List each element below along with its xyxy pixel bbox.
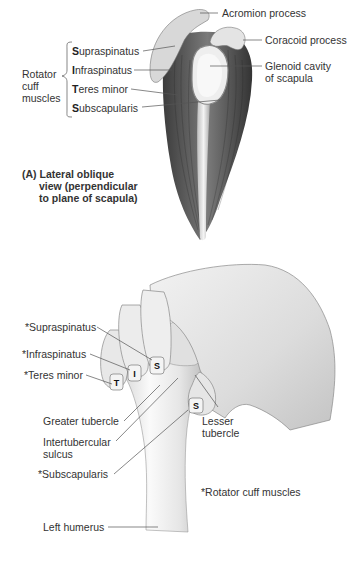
label-supraspinatus-b: *Supraspinatus <box>25 321 96 333</box>
label-lesser-tubercle-line1: Lesser <box>202 415 234 427</box>
group-label-rotator-line2: cuff <box>22 80 39 92</box>
label-greater-tubercle: Greater tubercle <box>43 415 119 427</box>
svg-text:I: I <box>133 369 136 379</box>
panel-a-caption: (A) Lateral oblique view (perpendicular … <box>22 168 138 204</box>
label-intertubercular-line1: Intertubercular <box>43 436 111 448</box>
footnote-rotator-cuff: *Rotator cuff muscles <box>201 486 301 498</box>
label-intertubercular-line2: sulcus <box>43 448 73 460</box>
svg-text:T: T <box>114 378 120 388</box>
label-glenoid-cavity-line1: Glenoid cavity <box>265 60 331 72</box>
label-subscapularis-b: *Subscapularis <box>38 468 108 480</box>
svg-text:S: S <box>193 401 199 411</box>
label-teres-minor-b: *Teres minor <box>24 369 83 381</box>
label-acromion-process: Acromion process <box>222 7 306 19</box>
label-left-humerus: Left humerus <box>43 521 104 533</box>
label-infraspinatus-a: Infraspinatus <box>72 64 132 76</box>
group-label-rotator-line3: muscles <box>22 92 61 104</box>
group-label-rotator-line1: Rotator <box>22 68 56 80</box>
label-lesser-tubercle-line2: tubercle <box>202 427 239 439</box>
svg-text:S: S <box>154 361 160 371</box>
label-coracoid-process: Coracoid process <box>265 34 347 46</box>
anatomy-illustration: T I S S <box>0 0 363 565</box>
label-subscapularis-a: Subscapularis <box>72 102 138 114</box>
rotator-cuff-figure: T I S S Acromion process Coracoid proces… <box>0 0 363 565</box>
label-teres-minor-a: Teres minor <box>72 83 128 95</box>
label-glenoid-cavity-line2: of scapula <box>265 72 313 84</box>
label-infraspinatus-b: *Infraspinatus <box>22 348 86 360</box>
label-supraspinatus-a: Supraspinatus <box>72 45 139 57</box>
scapula-illustration <box>150 9 252 240</box>
